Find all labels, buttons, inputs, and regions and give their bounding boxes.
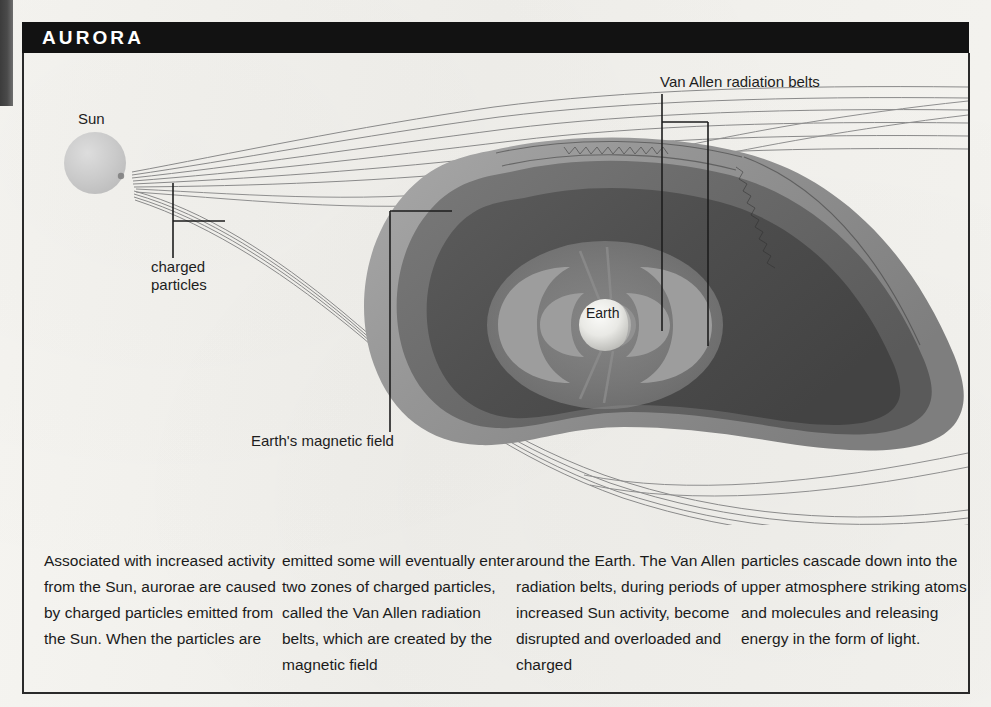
frame-border-bottom: [22, 692, 970, 694]
label-earth: Earth: [586, 304, 619, 322]
label-charged-particles: charged particles: [151, 258, 207, 294]
page-title: AURORA: [42, 27, 144, 48]
header-bar: [22, 22, 969, 53]
caption-block: Associated with increased activity from …: [22, 548, 970, 678]
solar-wind-streamlines-tail: [584, 453, 968, 496]
page-root: AURORA: [0, 0, 991, 707]
caption-column: Associated with increased activity from …: [22, 548, 282, 678]
label-sun: Sun: [78, 110, 105, 128]
caption-column: emitted some will eventually enter two z…: [282, 548, 516, 678]
caption-column: around the Earth. The Van Allen radiatio…: [516, 548, 741, 678]
label-van-allen-belts: Van Allen radiation belts: [660, 73, 820, 91]
page-edge-strip: [0, 0, 13, 106]
sun-spot: [118, 173, 124, 179]
caption-column: particles cascade down into the upper at…: [741, 548, 970, 678]
leader-charged-particles: [173, 183, 225, 258]
sun-sphere: [64, 132, 126, 194]
label-earths-magnetic-field: Earth's magnetic field: [251, 432, 394, 450]
